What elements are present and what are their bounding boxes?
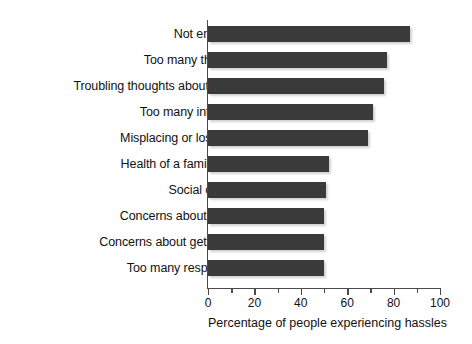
x-axis-tick-label: 80 [387, 296, 400, 310]
x-axis-major-tick [254, 289, 255, 295]
bar [208, 182, 326, 198]
x-axis-title: Percentage of people experiencing hassle… [208, 316, 440, 331]
bar-row: Concerns about getting ahead [0, 234, 472, 260]
bar-row: Concerns about standards [0, 208, 472, 234]
x-axis-major-tick [208, 289, 209, 295]
y-axis-line [207, 20, 208, 289]
bar-row: Health of a family member [0, 156, 472, 182]
bar [208, 260, 324, 276]
x-axis-major-tick [440, 289, 441, 295]
bar [208, 130, 368, 146]
x-axis-tick-label: 20 [248, 296, 261, 310]
bar-row: Social obligations [0, 182, 472, 208]
plot-area: Not enough timeToo many things to doTrou… [0, 0, 472, 344]
x-axis-major-tick [301, 289, 302, 295]
x-axis-minor-tick [278, 289, 279, 293]
x-axis-tick-label: 0 [205, 296, 212, 310]
x-axis-tick-label: 100 [430, 296, 450, 310]
bar [208, 78, 384, 94]
bar [208, 208, 324, 224]
x-axis-minor-tick [324, 289, 325, 293]
x-axis-minor-tick [417, 289, 418, 293]
x-axis-minor-tick [370, 289, 371, 293]
bar-row: Too many interruptions [0, 104, 472, 130]
bar [208, 26, 410, 42]
x-axis-minor-tick [231, 289, 232, 293]
x-axis-tick-label: 40 [294, 296, 307, 310]
x-axis-major-tick [347, 289, 348, 295]
bar [208, 156, 329, 172]
bar-row: Too many responsibilities [0, 260, 472, 286]
hassles-bar-chart: Not enough timeToo many things to doTrou… [0, 0, 472, 344]
bar-row: Misplacing or losing things [0, 130, 472, 156]
bar-row: Not enough time [0, 26, 472, 52]
bar [208, 52, 387, 68]
bar-row: Troubling thoughts about the future [0, 78, 472, 104]
bar [208, 104, 373, 120]
bar-row: Too many things to do [0, 52, 472, 78]
x-axis-major-tick [394, 289, 395, 295]
bar [208, 234, 324, 250]
x-axis-tick-label: 60 [341, 296, 354, 310]
